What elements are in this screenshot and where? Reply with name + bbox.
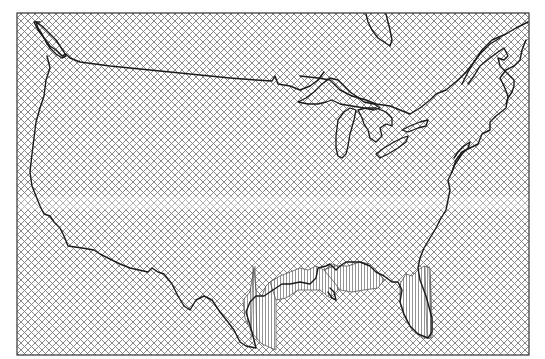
horizontal-light-band xyxy=(18,196,528,210)
map-canvas xyxy=(0,0,545,359)
